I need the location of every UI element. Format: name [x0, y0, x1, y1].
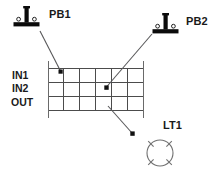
pushbutton-symbol-pb1	[14, 6, 40, 26]
terminal-row-label-out: OUT	[11, 96, 34, 108]
pushbutton-1-label: PB1	[49, 8, 71, 20]
pushbutton-terminal-left-icon	[17, 17, 21, 21]
connection-pb2-to-in2	[104, 34, 152, 90]
arrow-head-icon	[104, 85, 108, 89]
pushbutton-cap-icon	[162, 13, 169, 15]
arrow-head-icon	[59, 70, 63, 74]
pushbutton-symbol-pb2	[153, 13, 179, 33]
pushbutton-stem-icon	[164, 14, 168, 30]
terminal-row-label-in2: IN2	[12, 82, 29, 94]
connection-pb1-to-in1	[40, 31, 63, 74]
terminal-row-label-in1: IN1	[12, 69, 29, 81]
pushbutton-stem-icon	[25, 7, 29, 23]
pushbutton-2-label: PB2	[186, 15, 208, 27]
pushbutton-base-icon	[14, 22, 40, 26]
pushbutton-terminal-right-icon	[33, 17, 37, 21]
diagram-root: PB1 PB2 IN1 IN2	[0, 0, 218, 176]
pushbutton-cap-icon	[23, 6, 30, 8]
lamp-1-label: LT1	[163, 119, 182, 131]
connection-line	[40, 31, 61, 71]
wiring-diagram-canvas: PB1 PB2 IN1 IN2	[0, 0, 218, 176]
pushbutton-terminal-right-icon	[172, 24, 176, 28]
lamp-symbol-lt1	[147, 140, 173, 166]
arrow-head-icon	[130, 131, 134, 135]
connection-line	[107, 34, 153, 87]
pushbutton-base-icon	[153, 29, 179, 33]
pushbutton-terminal-left-icon	[156, 24, 160, 28]
